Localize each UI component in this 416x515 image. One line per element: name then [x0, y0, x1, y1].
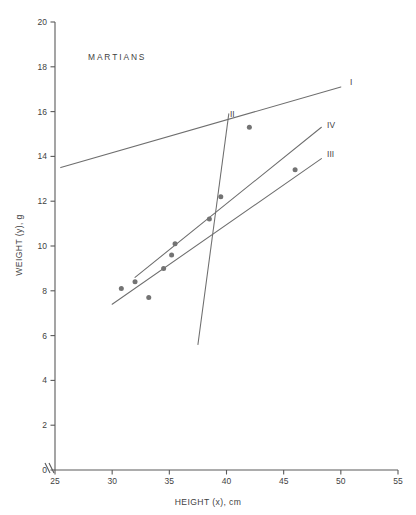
y-tick-label: 12 [38, 196, 48, 206]
series-label-iii: III [327, 149, 334, 159]
data-point [119, 286, 124, 291]
series-label-i: I [350, 77, 352, 87]
x-tick-label: 50 [336, 476, 346, 486]
series-labels-group: IIIIIIIV [230, 77, 352, 159]
y-tick-label: 2 [42, 420, 47, 430]
chart-title: MARTIANS [88, 52, 146, 62]
regression-line-iv [135, 127, 321, 277]
x-tick-label: 30 [107, 476, 117, 486]
x-tick-label: 40 [222, 476, 232, 486]
x-axis-ticks: 25303540455055 [50, 470, 403, 486]
chart-figure: 02468101214161820 25303540455055 IIIIIII… [0, 0, 416, 515]
y-tick-label: 18 [38, 62, 48, 72]
x-tick-label: 45 [279, 476, 289, 486]
scatter-plot-canvas: 02468101214161820 25303540455055 IIIIIII… [0, 0, 416, 515]
y-tick-label: 20 [38, 17, 48, 27]
x-tick-label: 55 [393, 476, 403, 486]
data-point [169, 252, 174, 257]
series-label-iv: IV [327, 120, 335, 130]
x-axis-title: HEIGHT (x), cm [175, 497, 242, 507]
data-point [173, 241, 178, 246]
x-tick-label: 25 [50, 476, 60, 486]
x-tick-label: 35 [165, 476, 175, 486]
data-point [207, 217, 212, 222]
data-points-group [119, 125, 298, 300]
y-axis-ticks: 02468101214161820 [38, 17, 55, 475]
y-tick-label: 4 [42, 375, 47, 385]
y-tick-label: 16 [38, 107, 48, 117]
data-point [161, 266, 166, 271]
regression-line-i [61, 87, 341, 168]
y-axis-title: WEIGHT (y), g [14, 214, 24, 275]
data-point [146, 295, 151, 300]
data-point [133, 279, 138, 284]
data-point [218, 194, 223, 199]
y-tick-label: 10 [38, 241, 48, 251]
regression-line-iii [112, 159, 321, 305]
y-tick-label: 8 [42, 286, 47, 296]
axes-group: 02468101214161820 25303540455055 [38, 17, 403, 486]
series-label-ii: II [230, 109, 235, 119]
data-point [293, 167, 298, 172]
regression-line-ii [198, 114, 229, 345]
data-point [247, 125, 252, 130]
y-tick-label: 6 [42, 331, 47, 341]
y-tick-label: 14 [38, 151, 48, 161]
regression-lines-group [61, 87, 341, 345]
